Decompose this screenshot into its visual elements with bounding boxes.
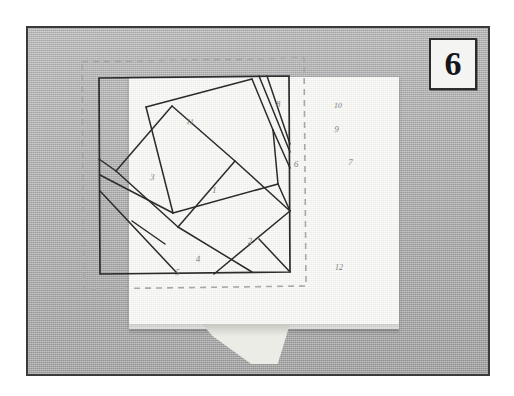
screenshot-root: 123456789101112 6 [0,0,514,396]
step-number-badge: 6 [429,38,477,90]
photograph-frame: 123456789101112 6 [26,26,490,376]
foundation-fabric-square [129,77,399,329]
step-number-text: 6 [445,47,462,81]
fabric-drop-shadow [129,324,399,336]
